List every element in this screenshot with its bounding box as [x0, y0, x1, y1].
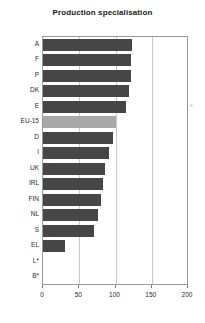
- y-axis-label-s: S: [2, 226, 42, 234]
- y-axis-label-eu-15: EU-15: [2, 117, 42, 125]
- bar-uk[interactable]: [43, 163, 105, 175]
- bar-f[interactable]: [43, 54, 131, 66]
- y-axis-labels: AFPDKEEU-15DIUKIRLFINNLSELL*B*: [0, 36, 42, 285]
- bar-row: [43, 271, 187, 283]
- y-axis-label-i: I: [2, 148, 42, 156]
- bar-i[interactable]: [43, 147, 109, 159]
- x-tick-100: [115, 285, 116, 288]
- bar-row: [43, 225, 187, 237]
- y-axis-label-a: A: [2, 40, 42, 48]
- bar-row: [43, 70, 187, 82]
- bar-nl[interactable]: [43, 209, 98, 221]
- y-axis-label-fin: FIN: [2, 195, 42, 203]
- bar-p[interactable]: [43, 70, 131, 82]
- bar-eu-15[interactable]: [43, 116, 116, 128]
- y-axis-label-irl: IRL: [2, 179, 42, 187]
- bars-layer: [43, 37, 187, 284]
- x-tick-50: [78, 285, 79, 288]
- bar-fin[interactable]: [43, 194, 101, 206]
- production-specialisation-chart: Production specialisation AFPDKEEU-15DIU…: [0, 0, 205, 323]
- x-axis-label-0: 0: [27, 291, 57, 298]
- plot-area: [42, 36, 188, 285]
- bar-s[interactable]: [43, 225, 94, 237]
- bar-el[interactable]: [43, 240, 65, 252]
- bar-dk[interactable]: [43, 85, 129, 97]
- x-axis-label-100: 100: [100, 291, 130, 298]
- bar-row: [43, 101, 187, 113]
- y-axis-label-e: E: [2, 102, 42, 110]
- bar-e[interactable]: [43, 101, 126, 113]
- x-tick-0: [42, 285, 43, 288]
- x-tick-200: [187, 285, 188, 288]
- bar-row: [43, 147, 187, 159]
- y-axis-label-nl: NL: [2, 210, 42, 218]
- bar-row: [43, 132, 187, 144]
- bar-row: [43, 209, 187, 221]
- x-tick-150: [151, 285, 152, 288]
- y-axis-label-b: B*: [2, 272, 42, 280]
- y-axis-label-d: D: [2, 133, 42, 141]
- y-axis-label-f: F: [2, 55, 42, 63]
- x-axis-label-200: 200: [172, 291, 202, 298]
- bar-row: [43, 194, 187, 206]
- bar-row: [43, 54, 187, 66]
- bar-row: [43, 256, 187, 268]
- bar-row: [43, 178, 187, 190]
- chart-title: Production specialisation: [0, 8, 205, 17]
- bar-row: [43, 85, 187, 97]
- bar-row: [43, 116, 187, 128]
- x-axis-labels: 050100150200: [0, 291, 205, 303]
- x-axis-label-150: 150: [136, 291, 166, 298]
- bar-irl[interactable]: [43, 178, 103, 190]
- x-axis-label-50: 50: [63, 291, 93, 298]
- bar-a[interactable]: [43, 39, 132, 51]
- y-axis-label-p: P: [2, 71, 42, 79]
- y-axis-label-el: EL: [2, 241, 42, 249]
- bar-row: [43, 163, 187, 175]
- bar-d[interactable]: [43, 132, 113, 144]
- bar-row: [43, 39, 187, 51]
- side-marker-dot: [190, 104, 193, 107]
- y-axis-label-uk: UK: [2, 164, 42, 172]
- bar-row: [43, 240, 187, 252]
- y-axis-label-l: L*: [2, 257, 42, 265]
- y-axis-label-dk: DK: [2, 86, 42, 94]
